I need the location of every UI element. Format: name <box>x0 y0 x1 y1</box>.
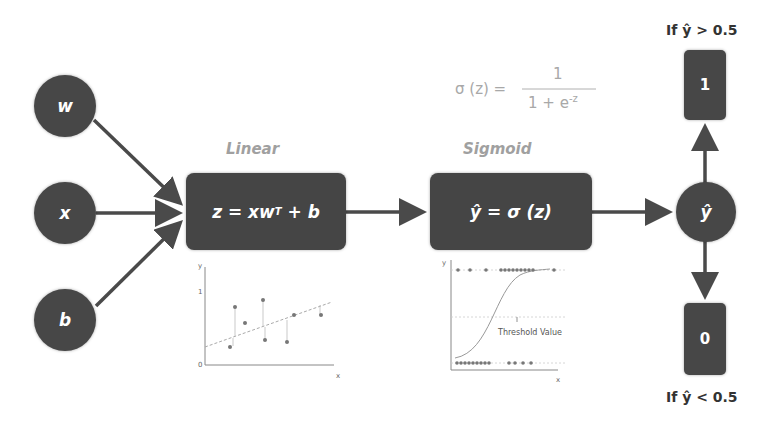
sigmoid-title: Sigmoid <box>463 140 532 158</box>
output-zero-label: 0 <box>700 330 710 348</box>
input-node-x: x <box>34 182 96 244</box>
output-one-label: 1 <box>700 76 710 94</box>
svg-text:y: y <box>442 259 446 267</box>
svg-text:0: 0 <box>198 361 202 369</box>
sigmoid-chart: y x Threshold Value <box>442 259 565 384</box>
linear-chart: y 1 0 x <box>198 262 340 380</box>
input-node-w: w <box>34 75 96 137</box>
svg-text:1: 1 <box>198 288 202 296</box>
logistic-regression-diagram: y 1 0 x <box>0 0 770 428</box>
arrow-b-linear <box>96 225 178 306</box>
sigmoid-definition-numerator: 1 <box>553 65 563 83</box>
input-x-label: x <box>60 203 71 223</box>
svg-text:x: x <box>556 376 560 384</box>
input-b-label: b <box>59 310 71 330</box>
linear-title: Linear <box>226 140 279 158</box>
output-one-box: 1 <box>684 50 726 120</box>
svg-text:y: y <box>198 262 202 270</box>
threshold-label: Threshold Value <box>497 328 562 337</box>
denominator-sup: -z <box>569 93 578 104</box>
linear-formula-sup: T <box>275 206 282 217</box>
sigmoid-definition-denominator: 1 + e-z <box>528 93 578 112</box>
sigmoid-formula: ŷ = σ (z) <box>470 202 552 222</box>
input-w-label: w <box>57 96 73 116</box>
connectors: y 1 0 x <box>0 0 770 428</box>
condition-zero: If ŷ < 0.5 <box>666 389 738 405</box>
sigmoid-box: ŷ = σ (z) <box>430 173 592 250</box>
arrow-w-linear <box>94 120 178 201</box>
condition-one: If ŷ > 0.5 <box>666 22 738 38</box>
denominator-text: 1 + e <box>528 94 569 112</box>
linear-formula-main: z = xw <box>212 202 275 222</box>
output-zero-box: 0 <box>684 303 726 375</box>
linear-box: z = xwT + b <box>186 173 346 250</box>
sigmoid-definition-lhs: σ (z) = <box>455 80 506 98</box>
linear-formula-tail: + b <box>282 202 320 222</box>
yhat-label: ŷ <box>700 202 711 222</box>
output-node-yhat: ŷ <box>676 182 736 242</box>
svg-text:x: x <box>336 372 340 380</box>
input-node-b: b <box>34 289 96 351</box>
